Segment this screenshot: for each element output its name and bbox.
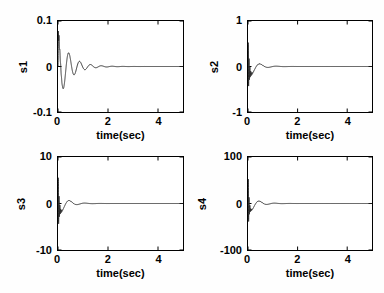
x-tick-label: 0 — [227, 254, 267, 265]
signal-line — [248, 179, 372, 221]
subplot-s4: s4 100 0 -100 0 2 4 time(sec) — [0, 0, 384, 293]
signal-plot — [248, 157, 372, 250]
x-axis-label: time(sec) — [250, 267, 370, 279]
x-tick-label: 4 — [328, 254, 368, 265]
x-tick-label: 2 — [277, 254, 317, 265]
y-tick-label: 100 — [202, 151, 242, 162]
figure-canvas: s1 0.1 0 -0.1 0 2 4 time(sec) s2 1 0 -1 … — [0, 0, 384, 293]
y-tick-label: 0 — [202, 199, 242, 210]
plot-area — [247, 156, 373, 251]
